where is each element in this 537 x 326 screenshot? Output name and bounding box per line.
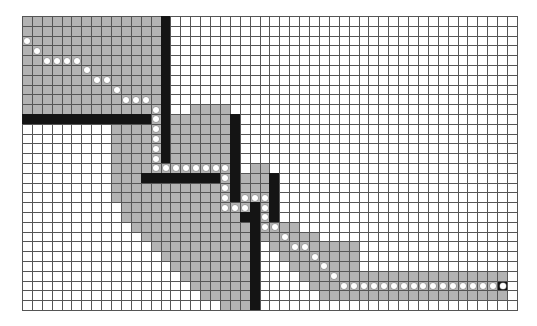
visited-cell[interactable] — [349, 281, 359, 291]
visited-cell[interactable] — [200, 222, 210, 232]
grid-cell[interactable] — [497, 94, 507, 104]
grid-cell[interactable] — [62, 251, 72, 261]
grid-cell[interactable] — [32, 192, 42, 202]
grid-cell[interactable] — [101, 271, 111, 281]
grid-cell[interactable] — [467, 16, 477, 26]
visited-cell[interactable] — [131, 163, 141, 173]
grid-cell[interactable] — [141, 271, 151, 281]
grid-cell[interactable] — [448, 183, 458, 193]
grid-cell[interactable] — [52, 124, 62, 134]
visited-cell[interactable] — [458, 281, 468, 291]
grid-cell[interactable] — [398, 94, 408, 104]
visited-cell[interactable] — [260, 212, 270, 222]
visited-cell[interactable] — [279, 222, 289, 232]
visited-cell[interactable] — [349, 241, 359, 251]
grid-cell[interactable] — [32, 290, 42, 300]
visited-cell[interactable] — [309, 241, 319, 251]
grid-cell[interactable] — [42, 241, 52, 251]
grid-cell[interactable] — [299, 65, 309, 75]
visited-cell[interactable] — [240, 261, 250, 271]
grid-cell[interactable] — [71, 241, 81, 251]
grid-cell[interactable] — [339, 55, 349, 65]
grid-cell[interactable] — [418, 55, 428, 65]
grid-cell[interactable] — [32, 281, 42, 291]
grid-cell[interactable] — [269, 114, 279, 124]
grid-cell[interactable] — [250, 65, 260, 75]
grid-cell[interactable] — [477, 232, 487, 242]
visited-cell[interactable] — [309, 271, 319, 281]
visited-cell[interactable] — [91, 26, 101, 36]
visited-cell[interactable] — [62, 65, 72, 75]
visited-cell[interactable] — [91, 45, 101, 55]
grid-cell[interactable] — [299, 114, 309, 124]
visited-cell[interactable] — [32, 85, 42, 95]
wall-cell[interactable] — [91, 114, 101, 124]
grid-cell[interactable] — [170, 104, 180, 114]
grid-cell[interactable] — [497, 300, 507, 310]
grid-cell[interactable] — [497, 212, 507, 222]
grid-cell[interactable] — [190, 55, 200, 65]
visited-cell[interactable] — [210, 163, 220, 173]
grid-cell[interactable] — [299, 104, 309, 114]
grid-cell[interactable] — [458, 222, 468, 232]
visited-cell[interactable] — [101, 16, 111, 26]
visited-cell[interactable] — [141, 55, 151, 65]
grid-cell[interactable] — [428, 85, 438, 95]
visited-cell[interactable] — [309, 261, 319, 271]
grid-cell[interactable] — [111, 271, 121, 281]
visited-cell[interactable] — [319, 251, 329, 261]
grid-cell[interactable] — [368, 124, 378, 134]
grid-cell[interactable] — [388, 183, 398, 193]
visited-cell[interactable] — [151, 104, 161, 114]
wall-cell[interactable] — [269, 202, 279, 212]
grid-cell[interactable] — [368, 75, 378, 85]
visited-cell[interactable] — [250, 183, 260, 193]
visited-cell[interactable] — [151, 212, 161, 222]
grid-cell[interactable] — [448, 212, 458, 222]
grid-cell[interactable] — [349, 202, 359, 212]
grid-cell[interactable] — [458, 134, 468, 144]
grid-cell[interactable] — [71, 173, 81, 183]
visited-cell[interactable] — [111, 173, 121, 183]
grid-cell[interactable] — [428, 153, 438, 163]
grid-cell[interactable] — [131, 261, 141, 271]
wall-cell[interactable] — [250, 261, 260, 271]
grid-cell[interactable] — [269, 251, 279, 261]
visited-cell[interactable] — [230, 281, 240, 291]
grid-cell[interactable] — [458, 104, 468, 114]
grid-cell[interactable] — [141, 251, 151, 261]
grid-cell[interactable] — [101, 241, 111, 251]
grid-cell[interactable] — [299, 124, 309, 134]
visited-cell[interactable] — [71, 104, 81, 114]
grid-cell[interactable] — [507, 261, 517, 271]
grid-cell[interactable] — [349, 173, 359, 183]
grid-cell[interactable] — [289, 65, 299, 75]
visited-cell[interactable] — [71, 16, 81, 26]
visited-cell[interactable] — [161, 222, 171, 232]
grid-cell[interactable] — [309, 212, 319, 222]
grid-cell[interactable] — [180, 94, 190, 104]
grid-cell[interactable] — [418, 36, 428, 46]
visited-cell[interactable] — [190, 183, 200, 193]
grid-cell[interactable] — [388, 65, 398, 75]
grid-cell[interactable] — [448, 55, 458, 65]
grid-cell[interactable] — [408, 251, 418, 261]
grid-cell[interactable] — [309, 16, 319, 26]
grid-cell[interactable] — [81, 192, 91, 202]
grid-cell[interactable] — [151, 300, 161, 310]
visited-cell[interactable] — [269, 222, 279, 232]
grid-cell[interactable] — [368, 251, 378, 261]
visited-cell[interactable] — [111, 75, 121, 85]
grid-cell[interactable] — [467, 183, 477, 193]
grid-cell[interactable] — [269, 104, 279, 114]
grid-cell[interactable] — [477, 300, 487, 310]
visited-cell[interactable] — [22, 94, 32, 104]
grid-cell[interactable] — [388, 212, 398, 222]
grid-cell[interactable] — [121, 281, 131, 291]
grid-cell[interactable] — [418, 192, 428, 202]
grid-cell[interactable] — [240, 153, 250, 163]
grid-cell[interactable] — [111, 281, 121, 291]
grid-cell[interactable] — [458, 153, 468, 163]
visited-cell[interactable] — [121, 55, 131, 65]
visited-cell[interactable] — [289, 251, 299, 261]
